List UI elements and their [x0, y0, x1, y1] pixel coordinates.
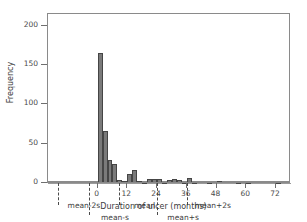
x-tick	[186, 183, 187, 188]
y-tick	[41, 25, 47, 26]
y-tick	[41, 64, 47, 65]
annotation-label: mean-s	[101, 213, 129, 222]
x-tick	[245, 183, 246, 188]
x-tick-label: 12	[122, 189, 132, 198]
plot-area: mean-2smean-smeanmean+smean+2s	[47, 13, 290, 182]
x-tick	[275, 183, 276, 188]
x-tick-label: 36	[181, 189, 191, 198]
x-tick-label: 0	[94, 189, 99, 198]
annotation-label: mean+s	[167, 213, 198, 222]
y-tick	[41, 103, 47, 104]
histogram-chart: mean-2smean-smeanmean+smean+2s 050100150…	[0, 0, 307, 222]
y-tick-label: 50	[28, 139, 38, 146]
y-tick-label: 0	[33, 178, 38, 185]
zero-baseline	[48, 183, 291, 184]
x-tick	[126, 183, 127, 188]
y-tick-label: 100	[24, 99, 38, 106]
x-axis-title: Duration of ulcer (months)	[0, 202, 307, 211]
y-tick-label: 150	[24, 60, 38, 67]
y-axis-title: Frequency	[6, 51, 15, 115]
x-axis-line	[47, 182, 290, 183]
x-tick-label: 60	[241, 189, 251, 198]
x-tick-label: 72	[270, 189, 280, 198]
y-tick	[41, 143, 47, 144]
x-tick	[97, 183, 98, 188]
x-tick-label: 24	[151, 189, 161, 198]
x-tick	[156, 183, 157, 188]
x-tick-label: 48	[211, 189, 221, 198]
y-tick-label: 200	[24, 21, 38, 28]
x-tick	[216, 183, 217, 188]
